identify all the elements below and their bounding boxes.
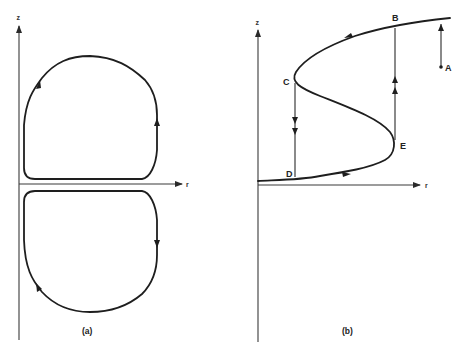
lower-loop-arrow-right-icon (154, 240, 160, 248)
point-a-label: A (445, 63, 452, 73)
point-d-label: D (286, 169, 293, 179)
point-b-label: B (392, 13, 399, 23)
jump-a-up-arrow-icon (438, 24, 444, 31)
figure-canvas: z r (a) z r (0, 0, 465, 355)
jump-e-to-b-arrow-2-icon (392, 87, 398, 94)
upper-loop-arrow-right-icon (154, 118, 160, 126)
panel-a: z r (a) (17, 14, 190, 340)
s-curve (258, 18, 450, 181)
panel-b: z r A B C D E (b) (256, 13, 453, 342)
panel-a-caption: (a) (82, 326, 93, 336)
point-c-label: C (283, 77, 290, 87)
upper-loop (24, 56, 157, 179)
jump-e-to-b-arrow-1-icon (392, 76, 398, 83)
curve-arrow-right-icon (342, 172, 351, 177)
panel-b-r-label: r (425, 182, 428, 189)
panel-b-z-label: z (256, 19, 260, 26)
panel-b-caption: (b) (342, 326, 353, 336)
jump-c-to-d-arrow-2-icon (292, 128, 298, 135)
point-a-dot (439, 65, 443, 69)
jump-c-to-d-arrow-1-icon (292, 117, 298, 124)
lower-loop (24, 191, 157, 312)
panel-a-r-label: r (186, 181, 189, 188)
panel-a-z-label: z (17, 14, 21, 21)
point-e-label: E (400, 141, 406, 151)
